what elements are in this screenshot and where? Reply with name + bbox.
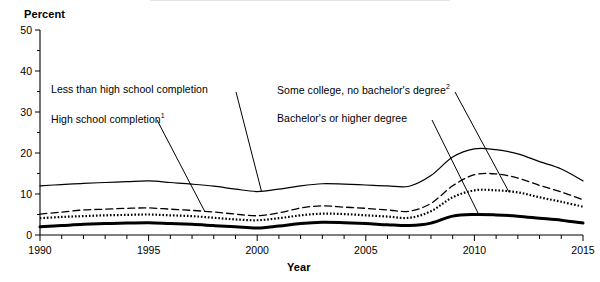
series-line: [40, 173, 583, 215]
x-tick-label: 2015: [571, 244, 595, 256]
series-lines: [40, 148, 583, 228]
x-tick-label: 2000: [246, 244, 270, 256]
y-tick-label: 50: [20, 24, 32, 36]
y-tick-label: 30: [20, 106, 32, 118]
leader-lines: [157, 92, 509, 215]
leader-less-than-high-school: [236, 92, 262, 192]
chart-container: Percent Year Less than high school compl…: [0, 0, 600, 282]
series-line: [40, 148, 583, 191]
y-tick-label: 20: [20, 147, 32, 159]
x-tick-label: 1995: [137, 244, 161, 256]
leader-some-college: [455, 92, 509, 192]
y-tick-label: 10: [20, 188, 32, 200]
series-line: [40, 214, 583, 228]
x-tick-label: 2010: [463, 244, 487, 256]
y-tick-labels: 01020304050: [20, 24, 32, 241]
y-tick-label: 40: [20, 65, 32, 77]
x-tick-labels: 199019952000200520102015: [28, 244, 595, 256]
x-tick-label: 1990: [28, 244, 52, 256]
axes-group: [35, 30, 583, 241]
y-tick-label: 0: [26, 229, 32, 241]
plot-area: 01020304050 199019952000200520102015: [0, 0, 600, 282]
x-tick-label: 2005: [354, 244, 378, 256]
leader-bachelors: [432, 120, 479, 215]
leader-high-school-completion: [157, 120, 205, 212]
